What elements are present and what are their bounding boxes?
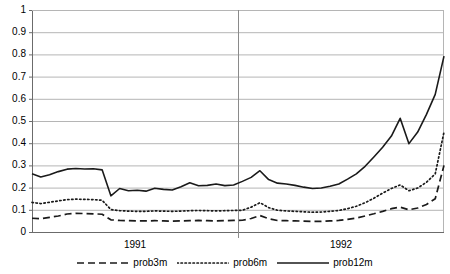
legend-item-prob3m: prob3m [77, 258, 167, 268]
legend-label: prob6m [233, 258, 267, 268]
y-tick-label: 0.2 [0, 183, 26, 193]
x-tick-label: 1991 [95, 240, 175, 250]
y-tick-label: 0 [0, 227, 26, 237]
y-tick-label: 0.6 [0, 94, 26, 104]
y-tick-label: 0.1 [0, 205, 26, 215]
legend-item-prob6m: prob6m [177, 258, 267, 268]
legend-swatch-solid-icon [277, 258, 329, 268]
y-tick-label: 0.4 [0, 138, 26, 148]
y-tick-label: 0.9 [0, 27, 26, 37]
y-tick-label: 0.3 [0, 160, 26, 170]
legend-label: prob12m [333, 258, 372, 268]
y-axis-ticks [29, 11, 32, 233]
y-tick-label: 0.8 [0, 49, 26, 59]
y-tick-label: 1 [0, 5, 26, 15]
legend-item-prob12m: prob12m [277, 258, 372, 268]
chart-legend: prob3mprob6mprob12m [0, 254, 450, 272]
y-tick-label: 0.5 [0, 116, 26, 126]
legend-swatch-dotted-icon [177, 258, 229, 268]
x-tick-label: 1992 [301, 240, 381, 250]
line-chart-plot [0, 0, 450, 274]
y-tick-label: 0.7 [0, 72, 26, 82]
legend-swatch-dashed-icon [77, 258, 129, 268]
legend-label: prob3m [133, 258, 167, 268]
chart-container: 10.90.80.70.60.50.40.30.20.10 19911992 p… [0, 0, 450, 274]
